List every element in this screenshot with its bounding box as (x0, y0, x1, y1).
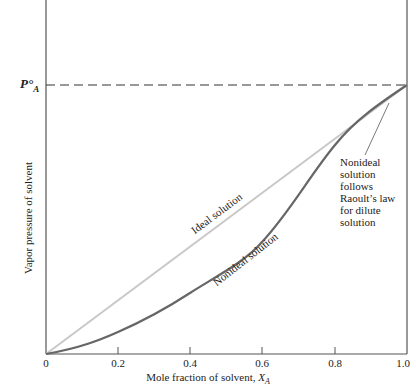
y-axis-label: Vapor pressure of solvent (22, 138, 34, 298)
x-tick-label: 0.6 (255, 357, 269, 369)
raoult-annotation: Nonideal solution follows Raoult’s law f… (340, 156, 395, 228)
x-tick-label: 1.0 (396, 357, 410, 369)
x-tick-label: 0.4 (183, 357, 197, 369)
x-tick-label: 0.8 (328, 357, 342, 369)
x-axis-label: Mole fraction of solvent, XA (0, 371, 416, 386)
pa-label: P°A (20, 76, 39, 94)
x-ticks (118, 347, 335, 354)
x-tick-label: 0 (43, 357, 49, 369)
x-tick-label: 0.2 (111, 357, 125, 369)
chart: P°A Vapor pressure of solvent 0 0.2 0.4 … (0, 0, 416, 391)
